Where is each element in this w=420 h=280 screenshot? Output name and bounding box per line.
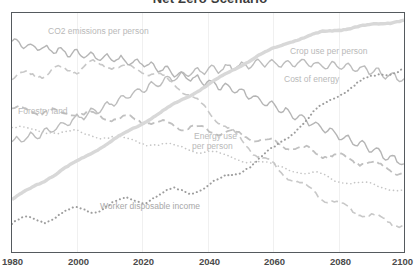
xtick-2080: 2080 [330, 256, 351, 267]
chart-title-clip: Net Zero Scenario [0, 0, 420, 10]
xtick-1980: 1980 [2, 256, 23, 267]
x-axis: 1980 2000 2020 2040 2060 2080 2100 [0, 256, 420, 278]
xtick-2100: 2100 [392, 256, 413, 267]
series-label-energy-1: Energy use [194, 131, 237, 141]
series-label-co2: CO2 emissions per person [48, 26, 149, 36]
xtick-2020: 2020 [133, 256, 154, 267]
plot-area: CO2 emissions per person Crop use per pe… [11, 12, 405, 253]
page-title: Net Zero Scenario [0, 0, 420, 6]
chart-root: Net Zero Scenario CO2 emissions per pers… [0, 0, 420, 280]
xtick-2040: 2040 [199, 256, 220, 267]
series-label-worker: Worker disposable income [100, 201, 200, 211]
series-label-cost: Cost of energy [284, 74, 339, 84]
series-label-forestry: Forestry land [18, 106, 68, 116]
xtick-2000: 2000 [68, 256, 89, 267]
series-label-crop: Crop use per person [290, 46, 368, 56]
series-label-energy-2: per person [192, 141, 233, 151]
xtick-2060: 2060 [264, 256, 285, 267]
